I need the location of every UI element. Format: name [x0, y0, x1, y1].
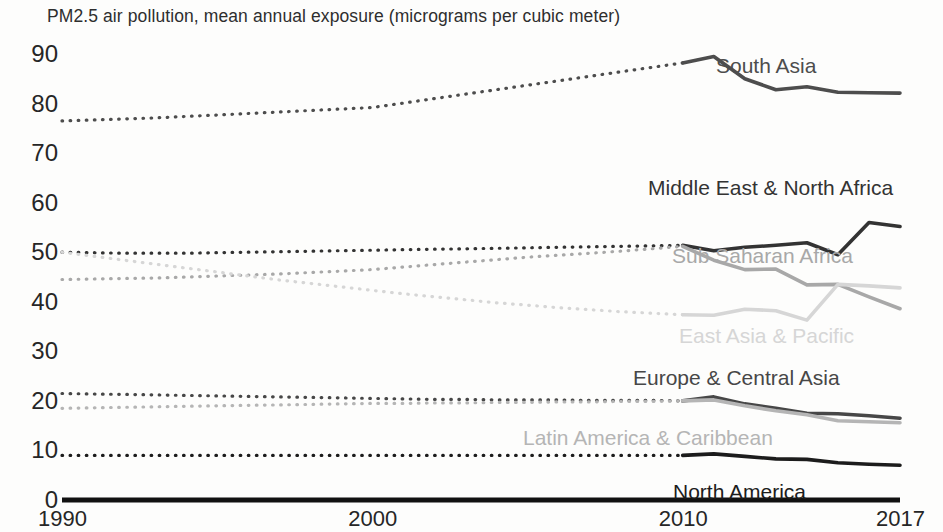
- chart-page: PM2.5 air pollution, mean annual exposur…: [0, 0, 943, 532]
- x-axis-tick-2017: 2017: [876, 508, 925, 530]
- series-label-middle-east-north-africa: Middle East & North Africa: [648, 177, 893, 198]
- x-axis-tick-1990: 1990: [38, 508, 87, 530]
- series-line-middle-east-north-africa: [62, 245, 683, 253]
- y-axis-tick-30: 30: [0, 339, 58, 363]
- series-line-sub-saharan-africa: [62, 246, 683, 279]
- series-line-east-asia-pacific: [683, 284, 900, 320]
- y-axis-tick-60: 60: [0, 191, 58, 215]
- y-axis-tick-70: 70: [0, 141, 58, 165]
- y-axis-tick-90: 90: [0, 42, 58, 66]
- series-label-europe-central-asia: Europe & Central Asia: [633, 367, 840, 388]
- series-line-europe-central-asia: [62, 394, 683, 401]
- x-axis-tick-2010: 2010: [659, 508, 708, 530]
- series-line-latin-america-caribbean: [62, 401, 683, 408]
- series-line-south-asia: [62, 63, 683, 121]
- series-label-east-asia-pacific: East Asia & Pacific: [679, 325, 854, 346]
- series-line-latin-america-caribbean: [683, 400, 900, 423]
- y-axis-tick-40: 40: [0, 290, 58, 314]
- series-label-south-asia: South Asia: [716, 55, 816, 76]
- y-axis-tick-20: 20: [0, 389, 58, 413]
- series-line-east-asia-pacific: [62, 252, 683, 315]
- y-axis-tick-10: 10: [0, 438, 58, 462]
- series-label-sub-saharan-africa: Sub Saharan Africa: [672, 245, 853, 266]
- y-axis-tick-50: 50: [0, 240, 58, 264]
- series-label-latin-america-caribbean: Latin America & Caribbean: [523, 427, 773, 448]
- series-label-north-america: North America: [673, 481, 806, 502]
- y-axis-tick-80: 80: [0, 92, 58, 116]
- series-line-north-america: [683, 454, 900, 465]
- x-axis-tick-2000: 2000: [348, 508, 397, 530]
